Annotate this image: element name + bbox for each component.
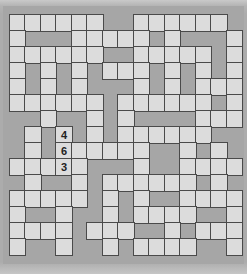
grid-cell[interactable] — [72, 143, 87, 159]
grid-cell[interactable] — [41, 159, 56, 175]
grid-cell[interactable] — [10, 239, 25, 255]
grid-cell[interactable] — [56, 239, 71, 255]
grid-cell[interactable] — [41, 15, 56, 31]
grid-cell[interactable] — [227, 63, 242, 79]
grid-cell[interactable] — [165, 239, 180, 255]
grid-cell[interactable] — [72, 159, 87, 175]
grid-cell[interactable] — [227, 223, 242, 239]
grid-cell[interactable] — [118, 175, 133, 191]
grid-cell[interactable] — [211, 191, 226, 207]
grid-cell[interactable] — [72, 47, 87, 63]
grid-cell[interactable] — [72, 31, 87, 47]
grid-cell[interactable] — [134, 143, 149, 159]
grid-cell[interactable] — [211, 223, 226, 239]
grid-cell[interactable] — [134, 239, 149, 255]
grid-cell[interactable]: 4 — [56, 127, 71, 143]
grid-cell[interactable] — [25, 95, 40, 111]
grid-cell[interactable] — [10, 31, 25, 47]
grid-cell[interactable] — [165, 79, 180, 95]
grid-cell[interactable] — [10, 207, 25, 223]
grid-cell[interactable] — [165, 15, 180, 31]
grid-cell[interactable] — [10, 79, 25, 95]
grid-cell[interactable] — [56, 47, 71, 63]
grid-cell[interactable] — [211, 143, 226, 159]
grid-cell[interactable] — [41, 79, 56, 95]
grid-cell[interactable] — [87, 111, 102, 127]
grid-cell[interactable] — [134, 207, 149, 223]
grid-cell[interactable] — [165, 223, 180, 239]
grid-cell[interactable] — [165, 63, 180, 79]
grid-cell[interactable] — [118, 111, 133, 127]
grid-cell[interactable] — [103, 31, 118, 47]
grid-cell[interactable] — [103, 239, 118, 255]
grid-cell[interactable] — [87, 223, 102, 239]
grid-cell[interactable] — [134, 47, 149, 63]
grid-cell[interactable] — [196, 159, 211, 175]
grid-cell[interactable] — [72, 15, 87, 31]
grid-cell[interactable] — [56, 15, 71, 31]
grid-cell[interactable] — [196, 47, 211, 63]
grid-cell[interactable] — [196, 15, 211, 31]
grid-cell[interactable] — [25, 127, 40, 143]
grid-cell[interactable] — [134, 63, 149, 79]
grid-cell[interactable] — [72, 175, 87, 191]
grid-cell[interactable] — [118, 31, 133, 47]
grid-cell[interactable] — [103, 175, 118, 191]
grid-cell[interactable] — [134, 15, 149, 31]
grid-cell[interactable] — [227, 79, 242, 95]
grid-cell[interactable] — [196, 127, 211, 143]
grid-cell[interactable] — [180, 15, 195, 31]
grid-cell[interactable] — [56, 95, 71, 111]
grid-cell[interactable] — [25, 223, 40, 239]
grid-cell[interactable]: 3 — [56, 159, 71, 175]
grid-cell[interactable] — [103, 207, 118, 223]
grid-cell[interactable] — [25, 191, 40, 207]
grid-cell[interactable] — [41, 95, 56, 111]
grid-cell[interactable] — [180, 175, 195, 191]
grid-cell[interactable] — [56, 207, 71, 223]
grid-cell[interactable] — [227, 191, 242, 207]
grid-cell[interactable] — [25, 159, 40, 175]
grid-cell[interactable] — [180, 95, 195, 111]
grid-cell[interactable] — [10, 223, 25, 239]
grid-cell[interactable] — [72, 95, 87, 111]
grid-cell[interactable] — [118, 95, 133, 111]
grid-cell[interactable] — [103, 191, 118, 207]
grid-cell[interactable] — [56, 191, 71, 207]
grid-cell[interactable] — [180, 159, 195, 175]
grid-cell[interactable] — [25, 15, 40, 31]
grid-cell[interactable]: 6 — [56, 143, 71, 159]
grid-cell[interactable] — [25, 175, 40, 191]
grid-cell[interactable] — [41, 63, 56, 79]
grid-cell[interactable] — [134, 31, 149, 47]
grid-cell[interactable] — [118, 127, 133, 143]
grid-cell[interactable] — [227, 239, 242, 255]
grid-cell[interactable] — [165, 175, 180, 191]
grid-cell[interactable] — [87, 127, 102, 143]
grid-cell[interactable] — [149, 207, 164, 223]
grid-cell[interactable] — [134, 79, 149, 95]
grid-cell[interactable] — [10, 159, 25, 175]
grid-cell[interactable] — [227, 159, 242, 175]
grid-cell[interactable] — [149, 127, 164, 143]
grid-cell[interactable] — [196, 111, 211, 127]
grid-cell[interactable] — [87, 47, 102, 63]
grid-cell[interactable] — [10, 47, 25, 63]
grid-cell[interactable] — [41, 47, 56, 63]
grid-cell[interactable] — [118, 223, 133, 239]
grid-cell[interactable] — [165, 95, 180, 111]
grid-cell[interactable] — [165, 207, 180, 223]
grid-cell[interactable] — [196, 191, 211, 207]
grid-cell[interactable] — [180, 191, 195, 207]
grid-cell[interactable] — [87, 15, 102, 31]
grid-cell[interactable] — [149, 239, 164, 255]
grid-cell[interactable] — [10, 15, 25, 31]
grid-cell[interactable] — [149, 175, 164, 191]
grid-cell[interactable] — [25, 143, 40, 159]
grid-cell[interactable] — [180, 207, 195, 223]
grid-cell[interactable] — [149, 95, 164, 111]
grid-cell[interactable] — [227, 111, 242, 127]
grid-cell[interactable] — [103, 143, 118, 159]
grid-cell[interactable] — [165, 47, 180, 63]
grid-cell[interactable] — [10, 191, 25, 207]
